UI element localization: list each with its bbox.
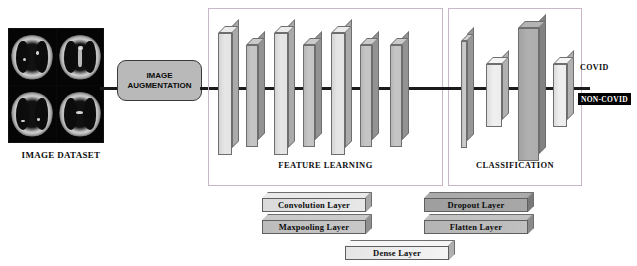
slab-front-face (486, 64, 502, 127)
layer-conv-1 (218, 26, 239, 155)
slab-front-face (390, 45, 402, 147)
legend-label: Flatten Layer (424, 220, 528, 234)
image-dataset-label: IMAGE DATASET (12, 150, 110, 160)
ct-slice-2 (57, 29, 104, 85)
slab-side-face (467, 27, 474, 141)
layer-pool-3 (360, 38, 379, 147)
slab-front-face (303, 45, 315, 147)
slab-front-face (461, 41, 467, 148)
legend-item-convolution-layer[interactable]: Convolution Layer (262, 192, 366, 212)
legend-item-dropout-layer[interactable]: Dropout Layer (424, 192, 528, 212)
feature-learning-label: FEATURE LEARNING (208, 160, 443, 170)
image-augmentation-box[interactable]: IMAGE AUGMENTATION (117, 60, 202, 101)
slab-front-face (274, 33, 288, 155)
slab-front-face (553, 64, 567, 127)
legend-item-flatten-layer[interactable]: Flatten Layer (424, 214, 528, 234)
slab-front-face (360, 45, 372, 147)
slab-side-face (402, 31, 409, 140)
slab-side-face (258, 31, 265, 140)
output-non-covid-label: NON-COVID (578, 93, 631, 105)
layer-dense-1 (486, 57, 509, 127)
slab-side-face (232, 19, 239, 148)
layer-pool-4 (390, 38, 409, 147)
slab-front-face (518, 28, 539, 161)
layer-dropout-1 (518, 21, 546, 161)
slab-front-face (331, 33, 345, 155)
layer-dense-2 (553, 57, 574, 127)
legend-item-maxpooling-layer[interactable]: Maxpooling Layer (262, 214, 366, 234)
slab-side-face (372, 31, 379, 140)
ct-slice-1 (9, 29, 56, 85)
layer-conv-3 (331, 26, 352, 155)
layer-pool-2 (303, 38, 322, 147)
augmentation-line-1: IMAGE (146, 71, 172, 81)
layer-flatten-1 (461, 34, 474, 148)
classification-label: CLASSIFICATION (448, 160, 582, 170)
image-dataset-thumbnail (8, 28, 104, 143)
layer-pool-1 (246, 38, 265, 147)
augmentation-line-2: AUGMENTATION (127, 81, 191, 91)
ct-slice-4 (57, 86, 104, 142)
diagram-canvas: IMAGE DATASET IMAGE AUGMENTATION FEATURE… (0, 0, 637, 266)
layer-conv-2 (274, 26, 295, 155)
output-covid-label: COVID (580, 63, 609, 72)
legend-label: Dense Layer (345, 246, 449, 260)
ct-slice-3 (9, 86, 56, 142)
slab-front-face (218, 33, 232, 155)
slab-side-face (345, 19, 352, 148)
legend-label: Convolution Layer (262, 198, 366, 212)
legend-label: Dropout Layer (424, 198, 528, 212)
slab-side-face (288, 19, 295, 148)
legend-label: Maxpooling Layer (262, 220, 366, 234)
slab-front-face (246, 45, 258, 147)
slab-side-face (315, 31, 322, 140)
legend-item-dense-layer[interactable]: Dense Layer (345, 240, 449, 260)
slab-side-face (539, 14, 546, 154)
